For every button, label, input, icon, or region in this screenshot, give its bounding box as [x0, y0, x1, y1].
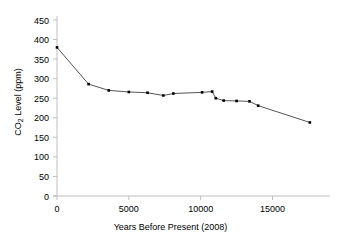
y-axis-tick-labels: 050100150200250300350400450	[34, 16, 49, 202]
y-axis-title-subscript: 2	[17, 118, 24, 122]
y-tick-label: 350	[34, 55, 49, 65]
x-axis-tick-labels: 050001000015000	[54, 204, 285, 214]
data-point-marker	[222, 99, 225, 102]
chart-container: 050100150200250300350400450 050001000015…	[0, 0, 341, 246]
data-point-marker	[235, 100, 238, 103]
y-tick-label: 300	[34, 74, 49, 84]
data-point-marker	[214, 97, 217, 100]
data-point-marker	[128, 91, 131, 94]
y-axis-title: CO2 Level (ppm)	[13, 68, 23, 135]
y-axis-title-suffix: Level (ppm)	[13, 68, 23, 118]
y-axis-title-prefix: CO	[13, 122, 23, 136]
y-tick-label: 400	[34, 35, 49, 45]
data-point-marker	[162, 94, 165, 97]
data-point-marker	[201, 91, 204, 94]
y-tick-label: 200	[34, 113, 49, 123]
x-axis-tick-marks	[57, 196, 273, 200]
y-tick-label: 250	[34, 94, 49, 104]
y-tick-label: 50	[39, 172, 49, 182]
y-tick-label: 450	[34, 16, 49, 26]
data-point-marker	[146, 91, 149, 94]
x-tick-label: 5000	[119, 204, 139, 214]
data-point-marker	[56, 46, 59, 49]
y-tick-label: 100	[34, 152, 49, 162]
data-point-marker	[309, 121, 312, 124]
x-tick-label: 15000	[260, 204, 285, 214]
data-point-marker	[172, 92, 175, 95]
data-point-marker	[257, 104, 260, 107]
co2-series-line	[57, 47, 310, 122]
y-axis-title-wrapper: CO2 Level (ppm)	[7, 42, 21, 162]
y-tick-label: 150	[34, 133, 49, 143]
data-point-marker	[248, 100, 251, 103]
co2-series-markers	[56, 46, 311, 124]
data-point-marker	[107, 89, 110, 92]
y-tick-label: 0	[44, 192, 49, 202]
x-tick-label: 10000	[188, 204, 213, 214]
data-point-marker	[87, 83, 90, 86]
data-point-marker	[211, 90, 214, 93]
line-chart-plot: 050100150200250300350400450 050001000015…	[0, 0, 341, 246]
x-axis-title: Years Before Present (2008)	[0, 222, 341, 232]
x-tick-label: 0	[54, 204, 59, 214]
